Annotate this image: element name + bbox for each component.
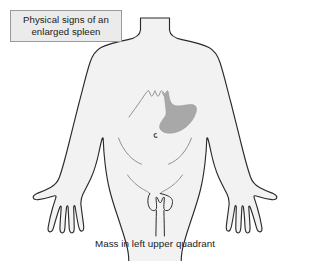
title-box: Physical signs of an enlarged spleen [10, 10, 122, 42]
title-line-2: enlarged spleen [15, 26, 117, 38]
figure-caption: Mass in left upper quadrant [0, 238, 310, 249]
penis-outline [156, 211, 157, 236]
title-line-1: Physical signs of an [15, 14, 117, 26]
illustration-container: Physical signs of an enlarged spleen Mas… [0, 0, 310, 261]
body-silhouette [33, 18, 277, 261]
torso-and-limbs-outline [33, 18, 277, 261]
penis-outline-right [164, 211, 165, 236]
